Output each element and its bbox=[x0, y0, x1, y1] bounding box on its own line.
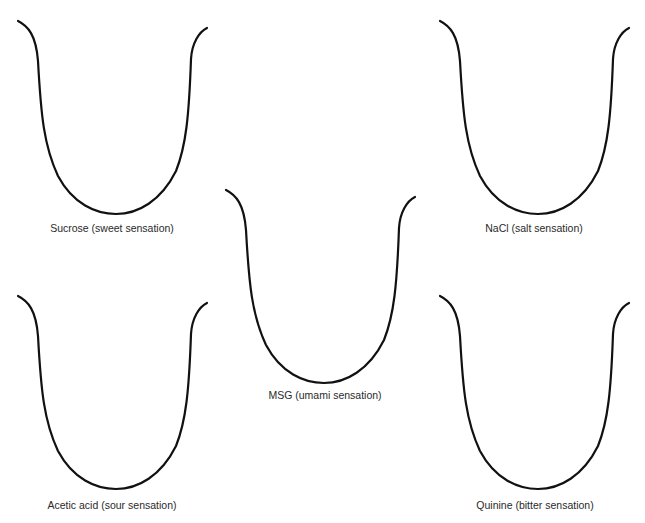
label-sucrose: Sucrose (sweet sensation) bbox=[50, 222, 174, 235]
curve-nacl bbox=[440, 21, 629, 214]
label-msg: MSG (umami sensation) bbox=[268, 389, 381, 402]
curve-quinine bbox=[440, 296, 629, 489]
curve-msg bbox=[226, 190, 415, 383]
label-acetic-acid: Acetic acid (sour sensation) bbox=[48, 499, 177, 512]
label-quinine: Quinine (bitter sensation) bbox=[476, 499, 593, 512]
curve-acetic-acid bbox=[18, 296, 207, 489]
label-nacl: NaCl (salt sensation) bbox=[485, 222, 582, 235]
curve-sucrose bbox=[18, 21, 207, 214]
taste-curves bbox=[0, 0, 645, 523]
